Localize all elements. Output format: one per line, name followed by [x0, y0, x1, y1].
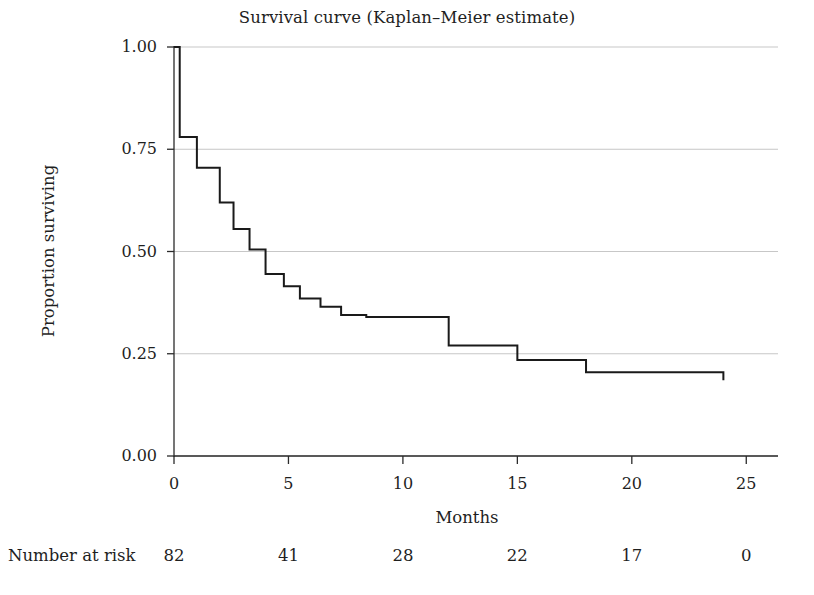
y-axis-tick-label: 0.00	[121, 446, 157, 465]
number-at-risk-value: 17	[621, 546, 642, 565]
y-axis-tick-label: 0.25	[121, 344, 157, 363]
survival-curve-figure: Survival curve (Kaplan–Meier estimate) 0…	[0, 0, 814, 595]
x-axis-tick-label: 25	[736, 474, 756, 493]
y-axis-tick-label: 0.50	[121, 242, 157, 261]
axis-ticks-group	[167, 47, 746, 464]
y-axis-tick-labels: 0.000.250.500.751.00	[95, 0, 157, 595]
plot-area	[174, 47, 760, 456]
x-axis-tick-labels: 0510152025	[0, 474, 814, 500]
x-axis-tick-label: 0	[169, 474, 179, 493]
x-axis-tick-label: 15	[507, 474, 527, 493]
number-at-risk-label: Number at risk	[8, 546, 136, 565]
y-axis-tick-label: 0.75	[121, 139, 157, 158]
number-at-risk-table: Number at risk 82412822170	[0, 546, 814, 574]
x-axis-tick-label: 5	[283, 474, 293, 493]
number-at-risk-value: 41	[278, 546, 299, 565]
x-axis-tick-label: 20	[622, 474, 642, 493]
x-axis-title: Months	[174, 508, 760, 527]
y-axis-title: Proportion surviving	[39, 165, 58, 337]
survival-curve-plot	[174, 47, 760, 456]
number-at-risk-value: 82	[164, 546, 185, 565]
y-axis-tick-label: 1.00	[121, 37, 157, 56]
x-axis-tick-label: 10	[393, 474, 413, 493]
number-at-risk-value: 28	[392, 546, 413, 565]
km-step-line	[174, 47, 723, 380]
number-at-risk-value: 0	[741, 546, 752, 565]
number-at-risk-value: 22	[507, 546, 528, 565]
